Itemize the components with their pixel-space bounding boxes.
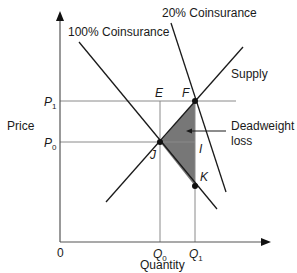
point-j-dot [157, 139, 163, 145]
q0-label: Q0 [153, 247, 167, 263]
origin-label: 0 [57, 246, 64, 260]
supply-label: Supply [231, 67, 268, 81]
annotation-line-2: loss [231, 134, 252, 148]
annotation-line-1: Deadweight [231, 119, 295, 133]
demand-20-coinsurance-curve [171, 23, 226, 192]
point-f-dot [192, 98, 198, 104]
x-axis-arrow-icon [261, 238, 271, 246]
q1-label: Q1 [189, 247, 203, 263]
point-k-dot [192, 183, 198, 189]
point-k-label: K [200, 170, 209, 184]
y-axis-label: Price [7, 119, 35, 133]
demand-20-label: 20% Coinsurance [162, 6, 257, 20]
y-axis-arrow-icon [56, 11, 64, 21]
demand-100-label: 100% Coinsurance [68, 25, 170, 39]
point-e-label: E [155, 86, 164, 100]
point-f-label: F [182, 86, 190, 100]
deadweight-loss-diagram: 100% Coinsurance 20% Coinsurance Supply … [0, 0, 297, 273]
point-i-label: I [199, 142, 203, 156]
deadweight-loss-area [160, 101, 195, 186]
supply-curve [106, 47, 243, 202]
point-j-label: J [149, 148, 157, 162]
p1-label: P1 [44, 95, 57, 111]
p0-label: P0 [44, 136, 57, 152]
